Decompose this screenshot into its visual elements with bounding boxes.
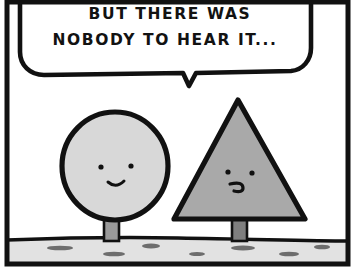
comic-panel-artwork: BUT THERE WAS NOBODY TO HEAR IT...: [0, 0, 356, 269]
pebble: [103, 252, 125, 257]
pebble: [314, 245, 330, 250]
circle-character-eye-right: [128, 163, 133, 168]
circle-character-eye-left: [98, 164, 103, 169]
circle-character-body: [62, 112, 168, 220]
speech-bubble: BUT THERE WAS NOBODY TO HEAR IT...: [16, 0, 311, 86]
pebble: [47, 246, 73, 251]
pebble: [231, 245, 255, 250]
speech-line-1: BUT THERE WAS: [89, 5, 252, 23]
speech-line-2: NOBODY TO HEAR IT...: [52, 31, 277, 49]
pebble: [189, 252, 205, 256]
triangle-character-eye-left: [225, 169, 230, 174]
comic-panel: BUT THERE WAS NOBODY TO HEAR IT...: [0, 0, 356, 269]
triangle-character-eye-right: [249, 170, 254, 175]
ground-group: [7, 238, 348, 262]
pebble: [142, 243, 160, 248]
pebble: [279, 252, 299, 257]
